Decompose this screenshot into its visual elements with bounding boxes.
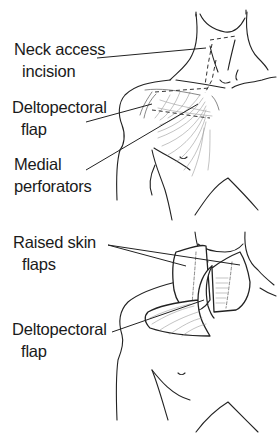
jaw-line [200, 14, 245, 32]
label-neck-access-incision: Neck access incision [14, 38, 105, 82]
sternal-notch [220, 80, 230, 83]
right-clavicle [232, 77, 276, 88]
leader-neck-incision [97, 48, 206, 58]
sternal-edge [212, 96, 219, 110]
lower-torso-right [195, 178, 258, 215]
neck-tendon [236, 70, 238, 80]
nipple-b [178, 373, 185, 375]
torso-left-outline [152, 150, 172, 220]
label-raised-skin-flaps: Raised skin flaps [13, 231, 96, 275]
lower-torso-right-b [196, 402, 258, 432]
label-deltopectoral-flap-top: Deltopectoral flap [12, 96, 107, 140]
armpit-line [150, 165, 155, 195]
chest-lower-left [154, 148, 190, 170]
label-line: Neck access [14, 38, 105, 60]
label-line: flap [12, 340, 107, 362]
label-medial-perforators: Medial perforators [14, 153, 92, 197]
neck-top-ticks [196, 10, 246, 16]
label-line: perforators [14, 175, 92, 197]
label-line: flap [12, 118, 107, 140]
neck-incision-upper [210, 36, 236, 40]
sternocleidomastoid-right [228, 40, 235, 70]
label-line: Medial [14, 153, 92, 175]
label-line: Deltopectoral [12, 318, 107, 340]
label-line: Deltopectoral [12, 96, 107, 118]
left-clavicle [176, 80, 225, 88]
left-shoulder-outline-b [116, 282, 176, 420]
label-line: flaps [13, 253, 96, 275]
bottom-figure [116, 232, 276, 432]
torso-outline-b [152, 370, 168, 420]
neck-left-outline [170, 14, 197, 80]
flap-upper-edge [145, 89, 200, 95]
label-line: Raised skin [13, 231, 96, 253]
right-clavicle-b [260, 288, 276, 296]
flap-incision-upper [155, 88, 210, 92]
label-deltopectoral-flap-bottom: Deltopectoral flap [12, 318, 107, 362]
label-line: incision [14, 60, 105, 82]
neck-right-outline [247, 12, 268, 70]
diagram-canvas: Neck access incision Deltopectoral flap … [0, 0, 280, 441]
pectoral-fibers [155, 92, 212, 176]
top-figure [117, 10, 276, 220]
left-arm-outline [117, 150, 120, 200]
